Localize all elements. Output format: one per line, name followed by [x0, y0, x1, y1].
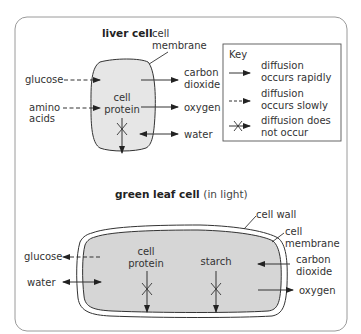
leaf-water-label: water — [27, 277, 56, 288]
liver-protein-label: cell — [113, 92, 130, 103]
liver-glucose-label: glucose — [25, 74, 63, 85]
liver-membrane-label-2: membrane — [152, 40, 207, 51]
liver-co2-label-2: dioxide — [184, 79, 220, 90]
liver-amino-label-2: acids — [29, 113, 55, 124]
key-legend: Key diffusion occurs rapidly diffusion o… — [223, 44, 341, 141]
liver-cell-diagram: liver cell cell membrane cell protein gl… — [25, 27, 220, 153]
liver-membrane-label: cell — [152, 28, 169, 39]
liver-water-label: water — [184, 129, 213, 140]
leaf-protein-label-2: protein — [128, 258, 164, 269]
leaf-cell-membrane — [83, 230, 282, 313]
leaf-co2-label-2: dioxide — [296, 266, 332, 277]
leaf-glucose-label: glucose — [24, 251, 62, 262]
leaf-co2-label: carbon — [296, 254, 331, 265]
key-slow-label: diffusion — [261, 88, 304, 99]
leaf-cell-title: green leaf cell (in light) — [115, 188, 248, 200]
leaf-membrane-label-2: membrane — [285, 238, 340, 249]
liver-amino-label: amino — [29, 102, 60, 113]
key-rapid-label: diffusion — [261, 60, 304, 71]
leaf-cell-diagram: green leaf cell (in light) cell wall cel… — [24, 188, 340, 318]
key-none-label-2: not occur — [261, 127, 309, 138]
leaf-protein-label: cell — [137, 246, 154, 257]
liver-cell-title: liver cell — [102, 27, 153, 39]
liver-protein-label-2: protein — [104, 104, 140, 115]
leaf-oxygen-label: oxygen — [299, 285, 335, 296]
key-slow-label-2: occurs slowly — [261, 100, 328, 111]
liver-oxygen-label: oxygen — [184, 102, 220, 113]
leaf-wall-label: cell wall — [256, 209, 296, 220]
key-none-label: diffusion does — [261, 115, 331, 126]
leaf-starch-label: starch — [201, 256, 232, 267]
key-title: Key — [229, 49, 247, 60]
leaf-membrane-label: cell — [285, 226, 302, 237]
diffusion-diagram: liver cell cell membrane cell protein gl… — [0, 0, 361, 334]
key-rapid-label-2: occurs rapidly — [261, 72, 331, 83]
liver-co2-label: carbon — [184, 67, 219, 78]
